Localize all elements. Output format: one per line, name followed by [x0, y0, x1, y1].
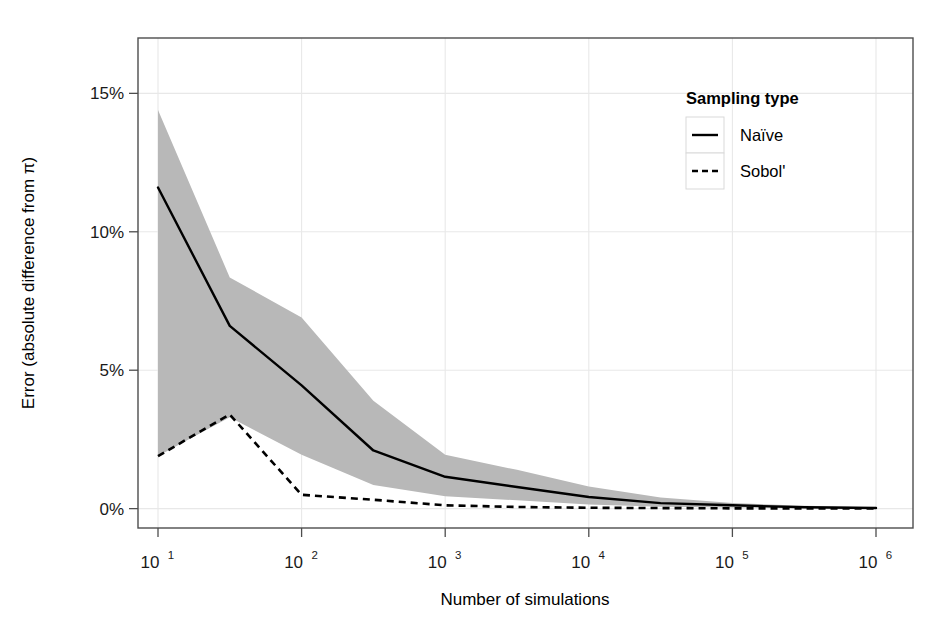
- x-tick-base-2: 10: [428, 553, 447, 572]
- x-tick-base-1: 10: [284, 553, 303, 572]
- x-tick-exponent-0: 1: [168, 549, 174, 561]
- y-tick-label-0: 0%: [99, 500, 124, 519]
- chart-figure: 0% 5% 10% 15% 10 1 10 2 10 3 10 4: [0, 0, 945, 635]
- y-tick-label-10: 10%: [90, 223, 124, 242]
- x-axis-ticks: [158, 528, 876, 537]
- x-axis-title: Number of simulations: [440, 590, 609, 609]
- legend-title: Sampling type: [686, 89, 799, 107]
- legend-label-naive: Naïve: [740, 126, 783, 144]
- x-tick-label-1e5: 10 5: [715, 549, 749, 572]
- y-axis-ticks: [129, 93, 138, 508]
- x-axis-tick-labels: 10 1 10 2 10 3 10 4 10 5 10 6: [141, 549, 893, 572]
- y-axis-title: Error (absolute difference from π): [19, 157, 38, 409]
- x-tick-exponent-1: 2: [311, 549, 317, 561]
- x-tick-label-1e2: 10 2: [284, 549, 318, 572]
- plot-panel-background: [138, 38, 913, 528]
- x-tick-label-1e4: 10 4: [571, 549, 605, 572]
- x-tick-exponent-4: 5: [742, 549, 748, 561]
- x-tick-exponent-2: 3: [455, 549, 461, 561]
- x-tick-base-3: 10: [571, 553, 590, 572]
- legend: Sampling type Naïve Sobol': [686, 89, 799, 189]
- x-tick-label-1e3: 10 3: [428, 549, 462, 572]
- x-tick-exponent-3: 4: [599, 549, 606, 561]
- chart-canvas: 0% 5% 10% 15% 10 1 10 2 10 3 10 4: [0, 0, 945, 635]
- y-axis-tick-labels: 0% 5% 10% 15%: [90, 84, 124, 518]
- y-tick-label-15: 15%: [90, 84, 124, 103]
- legend-label-sobol: Sobol': [740, 162, 785, 180]
- x-tick-base-5: 10: [859, 553, 878, 572]
- x-tick-label-1e6: 10 6: [859, 549, 893, 572]
- x-tick-base-4: 10: [715, 553, 734, 572]
- y-tick-label-5: 5%: [99, 361, 124, 380]
- x-tick-label-1e1: 10 1: [141, 549, 175, 572]
- x-tick-base-0: 10: [141, 553, 160, 572]
- x-tick-exponent-5: 6: [886, 549, 892, 561]
